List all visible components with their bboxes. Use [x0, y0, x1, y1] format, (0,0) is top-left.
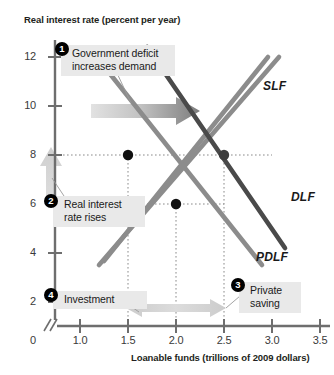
curve-slf [99, 57, 279, 265]
y-tick-label-12: 12 [14, 50, 36, 62]
callout-2-line-1: Real interest [64, 198, 140, 211]
callout-government-deficit: Government deficit increases demand [61, 45, 175, 76]
origin-label: 0 [14, 334, 36, 346]
y-tick-label-6: 6 [14, 197, 36, 209]
callout-2-line-2: rate rises [64, 211, 140, 224]
point-initial-equilibrium [171, 199, 181, 209]
loanable-funds-chart: Real interest rate (percent per year) Lo… [0, 0, 334, 375]
callout-1-line-2: increases demand [72, 60, 170, 73]
callout-badge-1: 1 [55, 42, 69, 56]
callout-badge-4: 4 [44, 288, 58, 302]
curve-label-slf: SLF [263, 79, 286, 93]
x-axis-break-icon [44, 319, 57, 332]
y-tick-label-8: 8 [14, 148, 36, 160]
x-tick-label-3-0: 3.0 [257, 334, 287, 346]
y-tick-label-10: 10 [14, 99, 36, 111]
x-tick-label-3-5: 3.5 [305, 334, 334, 346]
leader-3 [226, 296, 240, 308]
y-tick-label-2: 2 [14, 295, 36, 307]
callout-investment: Investment [53, 291, 147, 309]
x-axis-title: Loanable funds (trillions of 2009 dollar… [131, 352, 309, 363]
callout-1-line-1: Government deficit [72, 47, 170, 60]
x-tick-label-1-5: 1.5 [113, 334, 143, 346]
curve-label-dlf: DLF [291, 190, 315, 204]
x-tick-label-1-0: 1.0 [65, 334, 95, 346]
callout-badge-2: 2 [44, 194, 58, 208]
x-tick-label-2-5: 2.5 [209, 334, 239, 346]
point-new-equilibrium [219, 150, 229, 160]
y-tick-label-4: 4 [14, 246, 36, 258]
x-tick-label-2-0: 2.0 [161, 334, 191, 346]
callout-3-line-2: saving [250, 297, 296, 310]
curve-label-pdlf: PDLF [256, 250, 288, 264]
callout-real-interest-rate-rises: Real interest rate rises [53, 196, 145, 227]
callout-3-line-1: Private [250, 284, 296, 297]
point-private-demand-at-8 [123, 150, 133, 160]
callout-badge-3: 3 [231, 278, 245, 292]
callout-private-saving: Private saving [239, 282, 301, 313]
y-axis-title: Real interest rate (percent per year) [24, 14, 180, 25]
callout-4-line-1: Investment [64, 293, 142, 306]
